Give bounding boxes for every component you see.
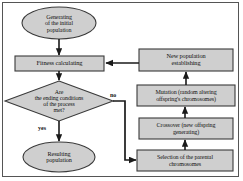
node-decision-shape (5, 81, 113, 121)
node-start-shape (22, 7, 96, 39)
node-newpop-shape (139, 49, 233, 71)
edge-label-no: no (110, 92, 116, 98)
node-mutation-shape (137, 85, 235, 106)
flowchart-canvas: Generating of the initial population Fit… (0, 0, 243, 181)
edge-label-yes: yes (38, 125, 46, 131)
node-crossover-shape (139, 118, 233, 139)
node-selection-shape (137, 150, 233, 171)
flowchart-graphics (0, 0, 243, 181)
node-result-shape (23, 142, 95, 172)
edge-decision-no-to-selection (113, 101, 136, 160)
node-fitness-shape (15, 56, 104, 71)
